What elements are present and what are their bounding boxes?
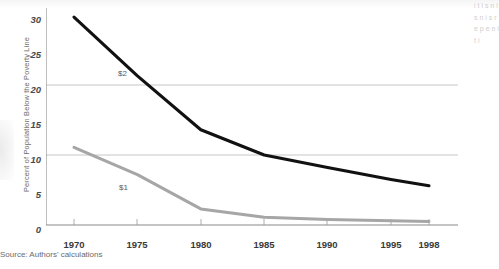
y-tick-label-25: 25 (30, 50, 41, 60)
adjacent-text-column: i t l s n i s n i s r e p e n i t i (474, 0, 499, 269)
figure-container: Percent of Population Below the Poverty … (0, 0, 499, 269)
y-tick-label-5: 5 (36, 190, 41, 200)
y-tick-label-30: 30 (30, 15, 41, 25)
y-tick-label-15: 15 (30, 120, 41, 130)
scan-artifact-top (0, 0, 499, 8)
y-tick-label-10: 10 (30, 155, 41, 165)
x-tick-label-1970: 1970 (63, 240, 84, 250)
plot-area: 0 5 10 15 20 25 30 1970 1975 1980 1985 1… (46, 8, 458, 228)
y-tick-label-20: 20 (30, 85, 41, 95)
scan-artifact-left (0, 120, 14, 180)
data-line-dollar1 (74, 147, 429, 221)
chart-svg (46, 8, 458, 236)
y-tick-label-0: 0 (36, 225, 41, 235)
data-line-dollar2 (74, 17, 429, 186)
x-tick-label-1975: 1975 (126, 240, 147, 250)
source-note: Source: Authors' calculations (0, 250, 102, 259)
x-tick-label-1995: 1995 (380, 240, 401, 250)
x-tick-label-1998: 1998 (418, 240, 439, 250)
y-axis-title: Percent of Population Below the Poverty … (22, 15, 31, 215)
x-tick-label-1980: 1980 (190, 240, 211, 250)
x-tick-label-1990: 1990 (316, 240, 337, 250)
x-tick-label-1985: 1985 (253, 240, 274, 250)
